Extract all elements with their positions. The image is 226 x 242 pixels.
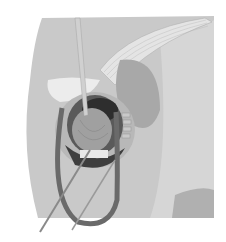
lower-pad (80, 150, 108, 158)
surgical-illustration (0, 0, 226, 242)
